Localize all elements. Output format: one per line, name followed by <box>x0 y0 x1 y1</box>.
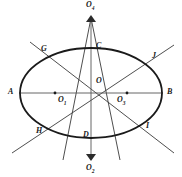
label-bottom-apex: O2 <box>86 164 95 174</box>
bottom-apex-marker <box>86 154 96 161</box>
label-left-center: O1 <box>58 96 67 106</box>
label-right-center: O3 <box>117 96 126 106</box>
geometry-figure: O4 O2 A B C D O O1 O3 G H I J <box>0 0 182 177</box>
label-center: O <box>96 77 102 85</box>
label-bottom-point: D <box>83 131 89 139</box>
figure-canvas <box>0 0 182 177</box>
top-apex-marker <box>86 15 96 22</box>
diagonal-line-H-J <box>12 45 174 153</box>
label-upper-left-end: G <box>41 45 47 53</box>
center-dot-O1 <box>54 92 57 95</box>
label-left-vertex: A <box>8 88 13 96</box>
label-lower-left-end: H <box>36 127 42 135</box>
label-lower-right-end: I <box>146 122 149 130</box>
center-dot-O3 <box>126 92 129 95</box>
label-top-point: C <box>96 42 101 50</box>
label-upper-right-end: J <box>152 52 156 60</box>
label-top-apex: O4 <box>86 1 95 11</box>
label-right-vertex: B <box>167 88 172 96</box>
